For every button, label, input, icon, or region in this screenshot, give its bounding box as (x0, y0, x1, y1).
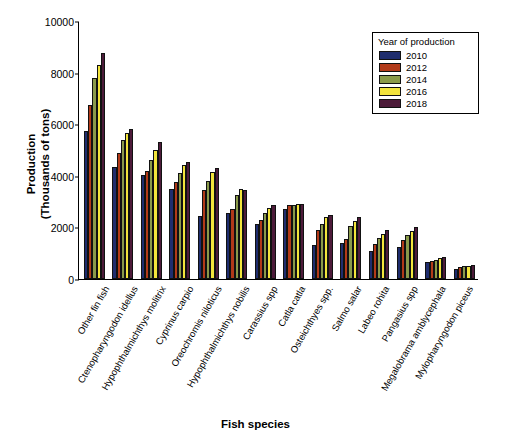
bar-group (312, 22, 333, 279)
legend-title: Year of production (377, 36, 474, 47)
bar-group (141, 22, 162, 279)
bar (471, 265, 475, 279)
bar (385, 230, 389, 279)
bar-group (169, 22, 190, 279)
bar (271, 205, 275, 279)
bar-group (340, 22, 361, 279)
bar-group (84, 22, 105, 279)
legend-swatch (379, 63, 401, 72)
legend-entry: 2010 (377, 49, 474, 61)
legend-entry: 2012 (377, 61, 474, 73)
y-axis-title-line1: Production (24, 54, 38, 274)
legend-swatch (379, 75, 401, 84)
x-axis-title: Fish species (0, 418, 511, 430)
bar-group (283, 22, 304, 279)
y-axis-title: Production (Thousands of tons) (24, 54, 52, 274)
legend-label: 2012 (406, 62, 427, 73)
legend-swatch (379, 99, 401, 108)
legend-label: 2016 (406, 86, 427, 97)
bar (129, 129, 133, 279)
y-axis-tick-label: 10000 (45, 16, 79, 28)
bar-group (226, 22, 247, 279)
legend-entry: 2016 (377, 85, 474, 97)
bar (357, 217, 361, 279)
y-axis-tick-mark (75, 280, 79, 281)
bar (243, 190, 247, 279)
legend-entries: 20102012201420162018 (377, 49, 474, 109)
bar (300, 204, 304, 279)
legend-entry: 2018 (377, 97, 474, 109)
bar-group (112, 22, 133, 279)
bar (101, 53, 105, 279)
legend-label: 2018 (406, 98, 427, 109)
bar (328, 215, 332, 280)
bar (186, 162, 190, 279)
x-axis-tick-label-text: Oreochromis niloticus (168, 284, 223, 369)
legend-swatch (379, 87, 401, 96)
x-axis-tick-labels: Other fin fishCtenopharyngodon idellusHy… (78, 284, 478, 414)
legend-entry: 2014 (377, 73, 474, 85)
bar (442, 257, 446, 279)
bar-group (255, 22, 276, 279)
bar (215, 168, 219, 279)
legend-swatch (379, 51, 401, 60)
legend-label: 2010 (406, 50, 427, 61)
y-axis-title-line2: (Thousands of tons) (38, 54, 52, 274)
legend: Year of production 20102012201420162018 (372, 32, 479, 114)
bar-group (198, 22, 219, 279)
bar (158, 142, 162, 279)
bar (414, 227, 418, 279)
bar-chart: Production (Thousands of tons) 020004000… (0, 0, 511, 448)
legend-label: 2014 (406, 74, 427, 85)
